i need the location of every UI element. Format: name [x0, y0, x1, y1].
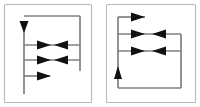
left-panel-frame — [5, 5, 92, 103]
flow-diagram-canvas — [0, 0, 200, 107]
figure-root — [0, 0, 200, 107]
left-panel — [5, 5, 92, 103]
right-panel — [107, 5, 196, 103]
